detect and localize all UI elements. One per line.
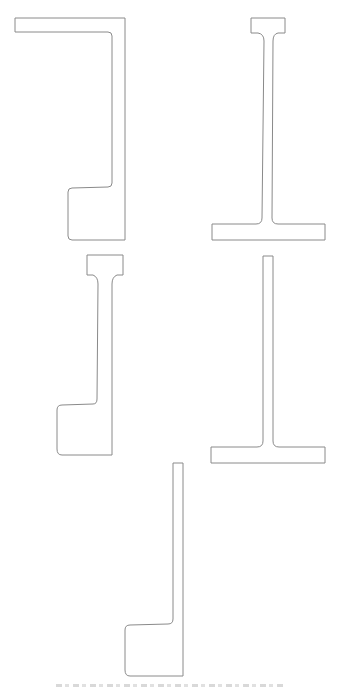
profile-4-inverted-t-section bbox=[211, 256, 325, 463]
section-profiles-diagram bbox=[0, 0, 342, 692]
profile-3-lipped-section bbox=[57, 255, 123, 455]
profile-1-channel-section bbox=[15, 18, 125, 240]
figure-caption-cropped bbox=[56, 684, 286, 692]
profile-2-i-section bbox=[212, 18, 325, 240]
profile-5-l-lipped-section bbox=[125, 463, 183, 676]
caption-fragment bbox=[56, 684, 286, 687]
